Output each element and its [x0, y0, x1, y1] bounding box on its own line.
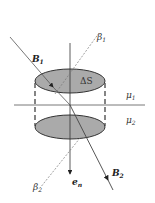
b2-ray-tail [108, 180, 113, 190]
label-beta1: β1 [96, 32, 106, 43]
label-b2: B2 [111, 168, 124, 179]
label-mu1: μ1 [126, 90, 136, 101]
label-en: en [72, 177, 82, 188]
label-beta2: β2 [32, 182, 42, 193]
pillbox-boundary-diagram: B1 β1 ΔS μ1 μ2 β2 en B2 [0, 0, 155, 203]
label-delta-s: ΔS [80, 76, 93, 86]
label-mu2: μ2 [126, 115, 136, 126]
label-b1: B1 [31, 54, 44, 65]
b2-ray [70, 105, 108, 180]
